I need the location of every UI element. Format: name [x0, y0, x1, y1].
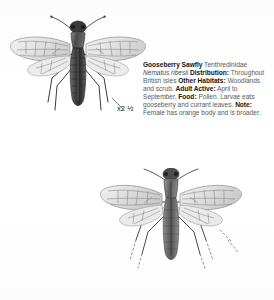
field-label-food: Food — [178, 93, 194, 100]
field-label-note: Note — [235, 101, 250, 108]
magnification-label-gooseberry: x2 ½ — [117, 104, 134, 113]
field-value-note: Female has orange body and is broader — [143, 109, 259, 116]
family-gooseberry: Tenthredinidae — [204, 61, 247, 68]
scientific-name-gooseberry: Nematus ribesii — [143, 69, 188, 76]
species-entry-rhogogaster-viridis: x2 Rhogogaster viridis Tenthredinidae Di… — [0, 150, 274, 300]
field-label-distribution: Distribution — [190, 69, 227, 76]
field-label-adult-active: Adult Active — [175, 85, 213, 92]
rhogogaster-viridis-illustration — [96, 168, 246, 286]
species-entry-gooseberry-sawfly: x2 ½ Gooseberry Sawfly Tenthredinidae Ne… — [0, 0, 274, 140]
field-label-other-habitats: Other Habitats — [178, 77, 223, 84]
common-name-gooseberry: Gooseberry Sawfly — [143, 61, 202, 68]
field-guide-page: x2 ½ Gooseberry Sawfly Tenthredinidae Ne… — [0, 0, 274, 300]
species-description-gooseberry-sawfly: Gooseberry Sawfly Tenthredinidae Nematus… — [143, 61, 271, 117]
